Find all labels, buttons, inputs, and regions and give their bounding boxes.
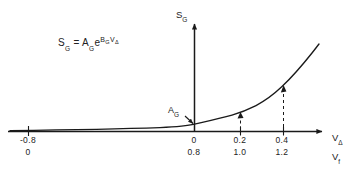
- ag-pointer-arrow: [185, 116, 193, 124]
- tick-label-secondary: 0.8: [176, 148, 212, 157]
- tick-label-primary: -0.8: [8, 136, 48, 145]
- figure-exponential-gain-curve: SG = AGeBGVΔ SG VΔ Vf AG -0.8 0 0 0.8 0.…: [0, 0, 354, 179]
- tick-label-secondary: 1.0: [222, 148, 258, 157]
- x-axis-label-secondary: Vf: [332, 152, 340, 164]
- y-axis-label: SG: [176, 10, 187, 22]
- equation-exponent: BGVΔ: [100, 36, 119, 43]
- tick-label-primary: 0: [176, 136, 212, 145]
- tick-label-group-neg08: -0.8 0: [8, 136, 48, 156]
- y-axis-label-sub: G: [182, 16, 187, 23]
- equation-label: SG = AGeBGVΔ: [58, 38, 119, 51]
- tick-label-group-zero: 0 0.8: [176, 136, 212, 156]
- equation-equals: =: [73, 37, 79, 48]
- intercept-annotation-sub: G: [174, 111, 179, 118]
- equation-exponent-b-sub: G: [105, 39, 110, 45]
- tick-label-group-02: 0.2 1.0: [222, 136, 258, 156]
- x-axis-label-secondary-sub: f: [338, 158, 340, 165]
- tick-label-secondary: 0: [8, 148, 48, 157]
- equation-lhs: S: [58, 37, 65, 48]
- x-axis-label-primary: VΔ: [332, 133, 343, 145]
- equation-lhs-sub: G: [65, 45, 70, 52]
- tick-label-secondary: 1.2: [264, 148, 300, 157]
- intercept-annotation-label: AG: [168, 106, 179, 117]
- tick-label-group-04: 0.4 1.2: [264, 136, 300, 156]
- exponential-curve: [10, 44, 319, 131]
- tick-label-primary: 0.4: [264, 136, 300, 145]
- tick-label-primary: 0.2: [222, 136, 258, 145]
- equation-amplitude-sub: G: [89, 45, 94, 52]
- x-axis-label-primary-sub: Δ: [338, 139, 342, 146]
- equation-exponent-v-sub: Δ: [115, 39, 119, 45]
